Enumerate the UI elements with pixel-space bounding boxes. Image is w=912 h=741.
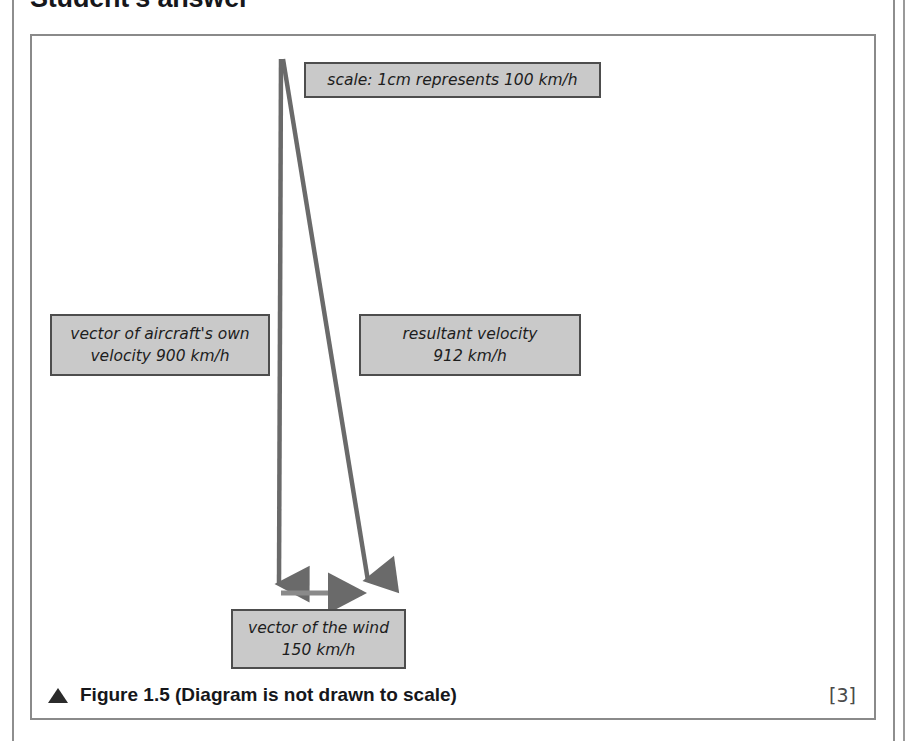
callout-resultant-line1: resultant velocity (402, 323, 537, 345)
figure-caption: Figure 1.5 (Diagram is not drawn to scal… (80, 684, 457, 706)
student-answer-box: scale: 1cm represents 100 km/h vector of… (30, 34, 876, 720)
callout-resultant-velocity: resultant velocity 912 km/h (359, 314, 581, 376)
callout-resultant-line2: 912 km/h (402, 345, 537, 367)
page-edge-rule-right-outer (903, 0, 905, 741)
callout-aircraft-line1: vector of aircraft's own (70, 323, 249, 345)
page-edge-rule-left (12, 0, 14, 741)
triangle-marker-icon (48, 688, 68, 703)
figure-caption-row: Figure 1.5 (Diagram is not drawn to scal… (32, 672, 878, 718)
aircraft-velocity-arrow (279, 59, 281, 584)
callout-aircraft-line2: velocity 900 km/h (70, 345, 249, 367)
resultant-velocity-arrow (283, 59, 368, 581)
callout-wind-line1: vector of the wind (248, 617, 389, 639)
callout-scale: scale: 1cm represents 100 km/h (304, 62, 601, 98)
callout-wind-velocity: vector of the wind 150 km/h (231, 609, 406, 669)
callout-aircraft-velocity: vector of aircraft's own velocity 900 km… (50, 314, 270, 376)
page-edge-rule-right (893, 0, 895, 741)
callout-scale-text: scale: 1cm represents 100 km/h (327, 69, 577, 91)
question-marks: [3] (829, 684, 856, 706)
callout-wind-line2: 150 km/h (248, 639, 389, 661)
section-title: Student's answer (30, 0, 249, 14)
